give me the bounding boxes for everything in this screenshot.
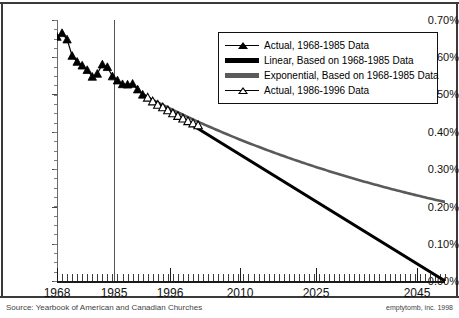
x-tick-label-2025: 2025 <box>286 287 346 299</box>
legend-label-exponential: Exponential, Based on 1968-1985 Data <box>264 70 439 81</box>
series-actual-1968-1985 <box>57 29 147 98</box>
legend-swatch-thick-gray-line-icon <box>225 69 259 82</box>
y-minor-tick <box>54 281 57 282</box>
x-tick-label-2010: 2010 <box>210 287 270 299</box>
credit-caption: emptytomb, inc. 1998 <box>386 303 453 312</box>
legend-item-exponential: Exponential, Based on 1968-1985 Data <box>219 68 437 83</box>
legend-item-actual-1986-1996: Actual, 1986-1996 Data <box>219 83 437 98</box>
legend-swatch-thick-black-line-icon <box>225 54 259 67</box>
legend-label-actual-1986-1996: Actual, 1986-1996 Data <box>264 85 369 96</box>
figure-frame-right <box>456 2 458 298</box>
legend-item-linear: Linear, Based on 1968-1985 Data <box>219 53 437 68</box>
source-caption: Source: Yearbook of American and Canadia… <box>6 303 202 312</box>
series-exponential <box>143 95 445 202</box>
x-tick-label-2045: 2045 <box>387 287 447 299</box>
figure-frame-left <box>1 2 3 298</box>
x-tick-label-1968: 1968 <box>27 287 87 299</box>
series-actual-1986-1996 <box>144 93 203 128</box>
figure-frame-top <box>0 2 459 4</box>
x-tick-label-1996: 1996 <box>140 287 200 299</box>
x-tick-label-1985: 1985 <box>84 287 144 299</box>
legend-swatch-filled-triangle-icon <box>225 39 259 52</box>
legend-swatch-open-triangle-icon <box>225 84 259 97</box>
chart-figure: 0.70% 0.60% 0.50% 0.40% 0.30% 0.20% 0.10… <box>0 0 459 318</box>
legend-item-actual-1968-1985: Actual, 1968-1985 Data <box>219 38 437 53</box>
x-minor-tick <box>445 274 446 281</box>
x-axis-line <box>57 281 445 283</box>
legend-label-linear: Linear, Based on 1968-1985 Data <box>264 55 414 66</box>
legend-label-actual-1968-1985: Actual, 1968-1985 Data <box>264 40 369 51</box>
chart-legend: Actual, 1968-1985 Data Linear, Based on … <box>218 32 438 104</box>
